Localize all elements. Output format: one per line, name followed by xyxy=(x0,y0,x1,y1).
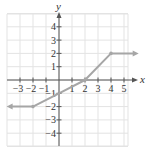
x-tick-label: 5 xyxy=(122,83,127,94)
curve-arrow-icon xyxy=(133,50,139,56)
y-tick-label: −3 xyxy=(45,114,56,125)
y-tick-label: −4 xyxy=(45,128,56,139)
x-axis-arrow-icon xyxy=(132,78,138,83)
x-tick-label: 3 xyxy=(96,83,101,94)
x-tick-label: 2 xyxy=(83,83,88,94)
y-tick-label: 4 xyxy=(51,21,56,32)
x-axis-label: x xyxy=(139,73,145,85)
x-tick-label: 4 xyxy=(109,83,114,94)
y-axis-label: y xyxy=(55,0,61,12)
y-axis-arrow-icon xyxy=(57,12,62,18)
x-tick-label: −3 xyxy=(13,83,24,94)
point-marker xyxy=(109,52,113,56)
y-tick-label: −2 xyxy=(45,101,56,112)
point-marker xyxy=(31,105,35,109)
y-tick-label: 1 xyxy=(51,61,56,72)
function-graph: −3−2−112345−4−3−2−11234 x y xyxy=(0,0,148,150)
y-tick-label: 3 xyxy=(51,35,56,46)
point-marker xyxy=(83,78,87,82)
x-tick-label: −2 xyxy=(26,83,37,94)
y-tick-label: 2 xyxy=(51,48,56,59)
